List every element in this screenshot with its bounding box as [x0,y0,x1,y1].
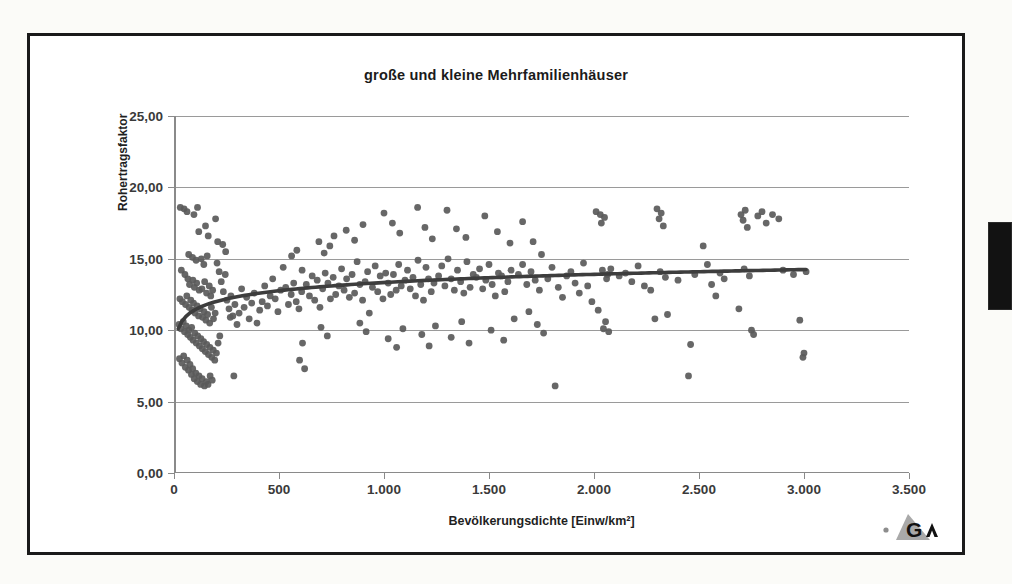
y-tick-label: 10,00 [129,323,163,338]
x-tick-mark [279,473,280,479]
y-tick-label: 0,00 [137,466,163,481]
x-tick-label: 500 [268,482,291,497]
trendline [178,270,806,329]
x-tick-label: 3.000 [787,482,821,497]
x-tick-label: 2.000 [577,482,611,497]
y-tick-label: 25,00 [129,109,163,124]
y-tick-label: 5,00 [137,394,163,409]
x-tick-mark [384,473,385,479]
x-tick-label: 1.500 [472,482,506,497]
x-axis-title: Bevölkerungsdichte [Einw/km²] [174,514,909,528]
x-tick-label: 1.000 [367,482,401,497]
y-tick-label: 15,00 [129,251,163,266]
trendline-layer [174,116,909,473]
x-tick-label: 2.500 [682,482,716,497]
plot-area: 0,005,0010,0015,0020,0025,00 05001.0001.… [174,116,909,473]
edge-marker-block [988,222,1012,310]
x-tick-mark [909,473,910,479]
chart-title: große und kleine Mehrfamilienhäuser [30,67,962,83]
x-tick-label: 0 [170,482,178,497]
y-axis-title: Rohertragsfaktor [116,114,130,211]
x-tick-mark [699,473,700,479]
chart-frame: große und kleine Mehrfamilienhäuser Rohe… [27,33,965,555]
x-tick-mark [174,473,175,479]
x-tick-mark [804,473,805,479]
y-tick-label: 20,00 [129,180,163,195]
x-tick-mark [489,473,490,479]
ga-logo: G [878,510,948,544]
x-tick-label: 3.500 [892,482,926,497]
svg-text:G: G [906,518,922,541]
x-tick-mark [594,473,595,479]
